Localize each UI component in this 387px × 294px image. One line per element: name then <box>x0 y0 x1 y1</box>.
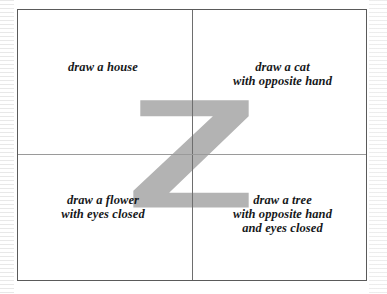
task-instruction-bottom-right: draw a tree with opposite hand and eyes … <box>233 193 332 235</box>
scan-texture-left-margin <box>0 0 14 294</box>
task-instruction-bottom-left: draw a flower with eyes closed <box>61 193 145 221</box>
task-instruction-top-right: draw a cat with opposite hand <box>233 60 332 88</box>
quadrant-bottom-right[interactable]: draw a tree with opposite hand and eyes … <box>193 155 366 281</box>
quadrant-top-right[interactable]: draw a cat with opposite hand <box>193 10 366 154</box>
scan-texture-right-margin <box>369 0 387 294</box>
quadrant-top-left[interactable]: draw a house <box>18 10 192 154</box>
task-instruction-top-left: draw a house <box>68 60 138 74</box>
worksheet-panel: draw a house draw a cat with opposite ha… <box>17 9 367 281</box>
quadrant-bottom-left[interactable]: draw a flower with eyes closed <box>18 155 192 281</box>
